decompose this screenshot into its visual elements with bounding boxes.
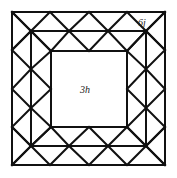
corner-label: 6j — [138, 17, 146, 28]
corner-diag-tr — [127, 31, 146, 51]
tiling-diagram: 3h 6j — [0, 0, 177, 178]
corner-diag-bl — [31, 127, 51, 146]
corner-diag-tl — [31, 31, 51, 51]
center-label: 3h — [79, 84, 90, 95]
diag-left-outer — [12, 12, 31, 165]
corner-diag-br — [127, 127, 146, 146]
diag-left-inner — [31, 51, 51, 127]
diag-right-outer — [146, 12, 165, 165]
diag-right-inner — [127, 51, 146, 127]
diag-bottom-up — [12, 146, 165, 165]
